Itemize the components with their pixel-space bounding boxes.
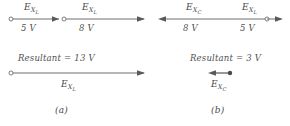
panel-b-resultant-text: Resultant = 3 V (190, 54, 261, 63)
panel-a-caption: (a) (55, 106, 68, 115)
panel-b-resultant-symbol: EXC (211, 80, 226, 92)
panel-b-vector-2-magnitude: 5 V (240, 24, 255, 33)
panel-b-vector-1-magnitude: 8 V (183, 24, 198, 33)
panel-a-vector-1-magnitude: 5 V (21, 24, 36, 33)
panel-b-vector-row (155, 14, 285, 24)
figure-canvas: EXL 5 V EXL 8 V Resultant = 13 V EXL (a) (0, 0, 290, 126)
panel-a-vector-2-magnitude: 8 V (79, 24, 94, 33)
panel-b-resultant-arrow (205, 68, 245, 78)
panel-a-resultant-text: Resultant = 13 V (18, 54, 95, 63)
panel-a-vector-1-symbol: EXL (24, 3, 39, 15)
panel-a-resultant-symbol: EXL (61, 80, 76, 92)
panel-b-vector-2-symbol: EXL (242, 3, 257, 15)
panel-b-caption: (b) (211, 106, 224, 115)
panel-a-vector-2-symbol: EXL (82, 3, 97, 15)
panel-b-vector-1-symbol: EXC (186, 3, 201, 15)
panel-a-resultant-arrow (6, 68, 148, 78)
